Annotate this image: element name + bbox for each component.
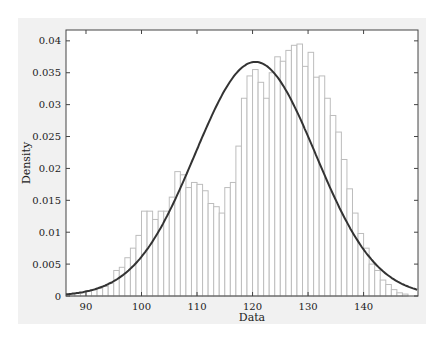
histogram-bar	[236, 146, 242, 296]
histogram-bar	[247, 76, 253, 296]
histogram-bar	[119, 267, 125, 296]
histogram-bar	[280, 61, 286, 296]
histogram-bar	[230, 182, 236, 296]
histogram-chart: 9010011012013014000.0050.010.0150.020.02…	[0, 0, 441, 339]
histogram-bar	[219, 213, 225, 296]
histogram-bar	[375, 270, 381, 296]
histogram-bar	[314, 77, 320, 296]
histogram-bar	[264, 98, 270, 296]
histogram-bar	[380, 280, 386, 296]
histogram-bar	[108, 283, 114, 296]
x-axis-label: Data	[239, 311, 266, 324]
histogram-bar	[291, 45, 297, 296]
histogram-bar	[253, 70, 259, 296]
histogram-bar	[125, 258, 131, 296]
x-tick-label: 130	[299, 301, 318, 312]
histogram-bar	[241, 98, 247, 296]
histogram-bar	[103, 286, 109, 296]
y-tick-label: 0.01	[39, 227, 61, 238]
histogram-bar	[275, 57, 281, 296]
x-tick-label: 90	[80, 301, 93, 312]
x-tick-label: 140	[354, 301, 373, 312]
histogram-bar	[197, 184, 203, 296]
histogram-bar	[214, 207, 220, 296]
y-tick-label: 0.04	[39, 35, 61, 46]
histogram-bar	[164, 211, 170, 296]
histogram-bar	[180, 175, 186, 296]
y-axis-label: Density	[20, 141, 33, 184]
histogram-bar	[308, 52, 314, 296]
histogram-bar	[386, 285, 392, 296]
y-tick-label: 0.035	[32, 67, 61, 78]
histogram-bar	[225, 188, 231, 296]
y-tick-label: 0.025	[32, 131, 61, 142]
y-tick-label: 0.02	[39, 163, 61, 174]
histogram-bar	[136, 235, 142, 296]
histogram-bar	[297, 44, 303, 296]
histogram-bar	[330, 115, 336, 296]
y-tick-label: 0	[55, 291, 61, 302]
histogram-bar	[369, 264, 375, 296]
histogram-bar	[325, 98, 331, 296]
histogram-bar	[319, 76, 325, 296]
y-tick-label: 0.005	[32, 259, 61, 270]
histogram-bar	[352, 213, 358, 296]
histogram-bar	[97, 288, 103, 296]
histogram-bar	[286, 50, 292, 296]
histogram-bar	[186, 188, 192, 296]
histogram-bar	[336, 132, 342, 296]
histogram-bar	[153, 219, 159, 296]
histogram-bar	[347, 189, 353, 296]
histogram-bar	[258, 82, 264, 296]
histogram-bar	[269, 73, 275, 296]
y-tick-label: 0.015	[32, 195, 61, 206]
histogram-bar	[191, 182, 197, 296]
histogram-bar	[208, 204, 214, 296]
y-tick-label: 0.03	[39, 99, 61, 110]
histogram-bar	[391, 290, 397, 296]
histogram-bar	[303, 66, 309, 296]
histogram-bar	[203, 191, 209, 296]
histogram-bar	[341, 159, 347, 296]
x-tick-label: 100	[132, 301, 151, 312]
histogram-bar	[130, 248, 136, 296]
histogram-bar	[147, 211, 153, 296]
histogram-bar	[114, 270, 120, 296]
x-tick-label: 110	[187, 301, 206, 312]
